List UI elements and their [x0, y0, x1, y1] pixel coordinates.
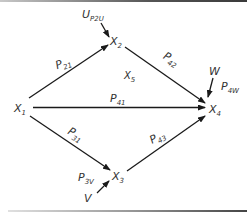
- edge-x1-x2: [29, 45, 108, 98]
- node-x3: X3: [111, 170, 124, 185]
- edge-label-p41: P41: [110, 92, 126, 107]
- edge-w-x4: [208, 78, 213, 97]
- node-x2: X2: [109, 35, 123, 50]
- exogenous-w: W: [209, 65, 221, 78]
- edge-label-p43: P43: [147, 128, 168, 149]
- diagram-frame: X1 X2 X3 X4 X5 UP2U W V P21 P42 P41 P31 …: [0, 0, 247, 213]
- node-x1: X1: [13, 102, 26, 117]
- edge-label-p42: P42: [160, 49, 181, 70]
- node-x5: X5: [123, 70, 136, 84]
- edge-x3-x4: [127, 116, 205, 171]
- edge-label-p31: P31: [64, 125, 85, 146]
- exogenous-u: UP2U: [82, 8, 104, 23]
- edge-label-p3v: P3V: [78, 171, 95, 186]
- bottom-border: [8, 210, 247, 212]
- edge-u-x2: [101, 23, 109, 37]
- exogenous-v: V: [84, 192, 93, 205]
- edge-v-x3: [97, 181, 109, 193]
- edge-x1-x3: [30, 116, 110, 170]
- path-diagram: X1 X2 X3 X4 X5 UP2U W V P21 P42 P41 P31 …: [0, 0, 247, 213]
- edge-label-p4w: P4W: [221, 80, 240, 95]
- node-x4: X4: [208, 103, 221, 118]
